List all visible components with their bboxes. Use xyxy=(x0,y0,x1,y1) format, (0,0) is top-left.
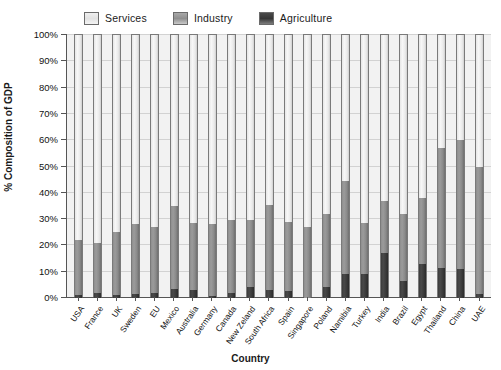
bar-segment-services xyxy=(266,35,273,205)
bar-segment-industry xyxy=(94,243,101,293)
bar-slot xyxy=(88,34,107,297)
legend-label-industry: Industry xyxy=(194,13,233,24)
bar-segment-industry xyxy=(266,205,273,290)
bar-segment-industry xyxy=(171,206,178,289)
x-axis-tick xyxy=(383,297,384,301)
bar-segment-industry xyxy=(228,220,235,292)
stacked-bar[interactable] xyxy=(456,34,465,297)
x-axis-tick xyxy=(116,297,117,301)
x-axis-tick xyxy=(211,297,212,301)
x-axis-tick-label: Brazil xyxy=(390,304,410,327)
x-label-slot: Thailand xyxy=(431,302,450,352)
stacked-bar[interactable] xyxy=(418,34,427,297)
stacked-bar[interactable] xyxy=(93,34,102,297)
x-label-slot: South Africa xyxy=(259,302,278,352)
legend-label-services: Services xyxy=(105,13,147,24)
stacked-bar-chart: Services Industry Agriculture % Composit… xyxy=(0,0,501,370)
bar-slot xyxy=(107,34,126,297)
x-axis-tick-label: China xyxy=(447,304,468,328)
legend-label-agriculture: Agriculture xyxy=(280,13,332,24)
y-axis-tick-label: 30% xyxy=(39,213,58,224)
stacked-bar[interactable] xyxy=(284,34,293,297)
bar-slot xyxy=(164,34,183,297)
bar-segment-services xyxy=(209,35,216,224)
y-axis-tick-label: 80% xyxy=(39,81,58,92)
bar-segment-agriculture xyxy=(400,281,407,298)
bar-segment-agriculture xyxy=(381,253,388,298)
stacked-bar[interactable] xyxy=(380,34,389,297)
bar-segment-industry xyxy=(285,222,292,291)
stacked-bar[interactable] xyxy=(246,34,255,297)
stacked-bar[interactable] xyxy=(360,34,369,297)
bar-segment-services xyxy=(381,35,388,201)
stacked-bar[interactable] xyxy=(475,34,484,297)
bar-segment-services xyxy=(476,35,483,167)
bar-segment-services xyxy=(304,35,311,227)
bar-segment-services xyxy=(113,35,120,232)
bar-segment-services xyxy=(285,35,292,222)
x-axis-tick xyxy=(173,297,174,301)
stacked-bar[interactable] xyxy=(303,34,312,297)
bar-slot xyxy=(451,34,470,297)
bar-slot xyxy=(394,34,413,297)
bar-slot xyxy=(432,34,451,297)
y-axis-tick-label: 90% xyxy=(39,55,58,66)
x-axis-tick xyxy=(192,297,193,301)
agriculture-swatch-icon xyxy=(259,12,274,25)
stacked-bar[interactable] xyxy=(322,34,331,297)
bar-slot xyxy=(184,34,203,297)
bar-slot xyxy=(145,34,164,297)
bar-slot xyxy=(355,34,374,297)
bar-segment-services xyxy=(94,35,101,243)
bar-segment-services xyxy=(342,35,349,181)
legend-item-agriculture: Agriculture xyxy=(259,12,332,25)
bars-layer xyxy=(67,34,491,297)
industry-swatch-icon xyxy=(173,12,188,25)
stacked-bar[interactable] xyxy=(265,34,274,297)
bar-slot xyxy=(260,34,279,297)
bar-segment-services xyxy=(132,35,139,224)
x-label-slot: France xyxy=(87,302,106,352)
x-axis-tick xyxy=(78,297,79,301)
bar-segment-agriculture xyxy=(342,274,349,298)
stacked-bar[interactable] xyxy=(189,34,198,297)
x-axis-tick xyxy=(97,297,98,301)
bar-slot xyxy=(69,34,88,297)
bar-segment-agriculture xyxy=(361,274,368,298)
y-axis-tick-label: 0% xyxy=(44,292,58,303)
x-axis-tick-label: UK xyxy=(109,304,124,319)
stacked-bar[interactable] xyxy=(131,34,140,297)
chart-legend: Services Industry Agriculture xyxy=(84,12,332,25)
stacked-bar[interactable] xyxy=(208,34,217,297)
stacked-bar[interactable] xyxy=(437,34,446,297)
bar-segment-industry xyxy=(342,181,349,274)
stacked-bar[interactable] xyxy=(399,34,408,297)
bar-slot xyxy=(126,34,145,297)
x-label-slot: Sweden xyxy=(125,302,144,352)
bar-segment-industry xyxy=(75,240,82,295)
stacked-bar[interactable] xyxy=(341,34,350,297)
x-axis-tick xyxy=(345,297,346,301)
stacked-bar[interactable] xyxy=(112,34,121,297)
bar-segment-services xyxy=(400,35,407,214)
x-axis-tick-label: UAE xyxy=(469,304,487,324)
bar-segment-services xyxy=(247,35,254,220)
x-axis-tick xyxy=(479,297,480,301)
x-label-slot: Namibia xyxy=(335,302,354,352)
x-axis-tick-label: EU xyxy=(147,304,162,319)
y-axis-tick-label: 100% xyxy=(34,29,58,40)
bar-segment-industry xyxy=(457,140,464,269)
stacked-bar[interactable] xyxy=(227,34,236,297)
stacked-bar[interactable] xyxy=(74,34,83,297)
stacked-bar[interactable] xyxy=(150,34,159,297)
bar-slot xyxy=(298,34,317,297)
bar-segment-services xyxy=(419,35,426,198)
stacked-bar[interactable] xyxy=(170,34,179,297)
bar-slot xyxy=(241,34,260,297)
bar-segment-industry xyxy=(419,198,426,264)
y-axis-tick-label: 60% xyxy=(39,134,58,145)
bar-segment-industry xyxy=(113,232,120,295)
x-label-slot: Turkey xyxy=(354,302,373,352)
legend-item-services: Services xyxy=(84,12,147,25)
bar-segment-industry xyxy=(438,148,445,268)
